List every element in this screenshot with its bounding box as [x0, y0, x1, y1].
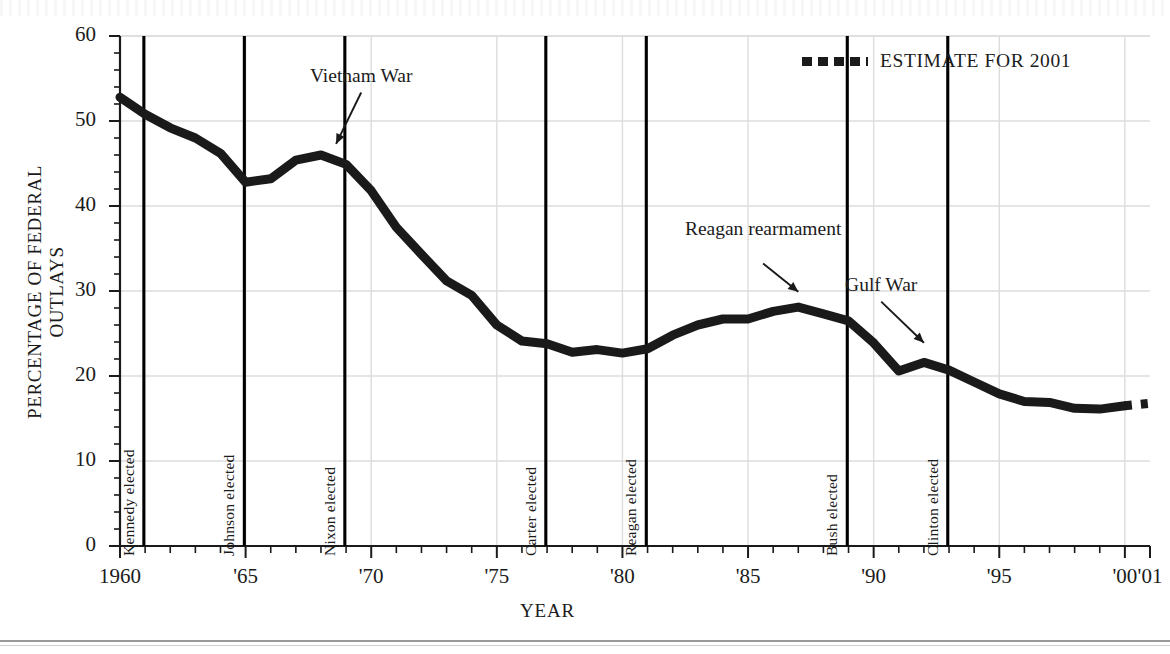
y-tick-label: 60 — [48, 22, 96, 47]
event-line-label: Kennedy elected — [120, 449, 138, 556]
x-tick-label: '95 — [964, 564, 1034, 589]
chart-figure: PERCENTAGE OF FEDERAL OUTLAYS YEAR 01020… — [0, 0, 1170, 654]
dotted-line-swatch-icon — [802, 57, 868, 66]
x-tick-label: '65 — [211, 564, 281, 589]
chart-annotation: Reagan rearmament — [673, 218, 853, 240]
y-tick-label: 30 — [48, 277, 96, 302]
page-bottom-rule-secondary — [0, 645, 1170, 646]
x-tick-label: '75 — [462, 564, 532, 589]
event-line-label: Johnson elected — [220, 454, 238, 556]
y-tick-label: 50 — [48, 107, 96, 132]
chart-annotation: Gulf War — [791, 274, 971, 296]
x-axis-title: YEAR — [520, 600, 575, 622]
y-tick-label: 0 — [48, 532, 96, 557]
event-line-label: Carter elected — [522, 467, 540, 556]
x-tick-label: 1960 — [85, 564, 155, 589]
x-tick-label: '80 — [587, 564, 657, 589]
chart-annotation: Vietnam War — [271, 65, 451, 87]
x-tick-label: '01 — [1115, 564, 1170, 589]
x-tick-label: '70 — [336, 564, 406, 589]
legend-item-label: ESTIMATE FOR 2001 — [880, 50, 1071, 72]
legend: ESTIMATE FOR 2001 — [802, 50, 1071, 72]
event-line-label: Clinton elected — [924, 459, 942, 556]
x-tick-label: '90 — [839, 564, 909, 589]
event-line-label: Nixon elected — [321, 467, 339, 556]
page-bottom-rule — [0, 640, 1170, 642]
y-tick-label: 40 — [48, 192, 96, 217]
x-tick-label: '85 — [713, 564, 783, 589]
event-line-label: Bush elected — [823, 474, 841, 556]
estimate-line-series — [1125, 403, 1150, 406]
y-tick-label: 10 — [48, 447, 96, 472]
event-line-label: Reagan elected — [622, 459, 640, 556]
chart-canvas — [0, 0, 1170, 654]
y-tick-label: 20 — [48, 362, 96, 387]
